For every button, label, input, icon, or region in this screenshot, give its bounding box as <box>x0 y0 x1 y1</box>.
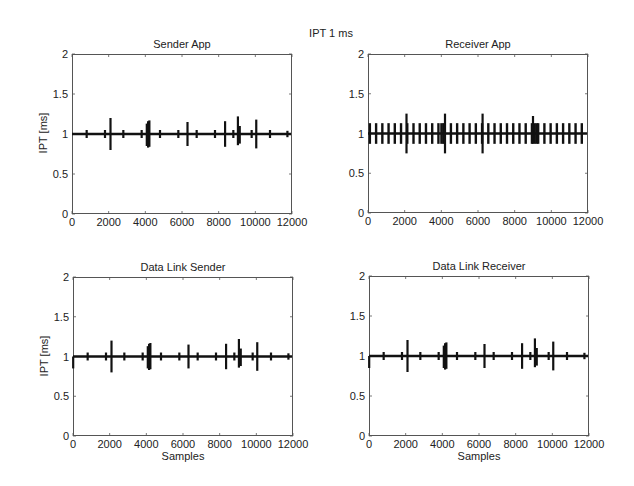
x-tick-label: 12000 <box>569 438 609 450</box>
y-tick-label: 0.5 <box>45 390 69 402</box>
data-series <box>72 54 292 214</box>
x-tick-label: 0 <box>52 216 92 228</box>
y-tick-label: 0.5 <box>340 167 364 179</box>
x-axis-label: Samples <box>439 450 519 462</box>
data-series <box>368 54 588 213</box>
panel-title: Data Link Receiver <box>369 260 589 272</box>
y-tick-label: 0.5 <box>341 390 365 402</box>
y-tick-label: 1 <box>340 128 364 140</box>
y-tick-label: 1.5 <box>44 88 68 100</box>
x-tick-label: 4000 <box>126 438 166 450</box>
x-tick-label: 0 <box>53 438 93 450</box>
y-tick-label: 1.5 <box>45 311 69 323</box>
x-tick-label: 2000 <box>90 438 130 450</box>
x-tick-label: 2000 <box>385 215 425 227</box>
x-tick-label: 12000 <box>272 216 312 228</box>
data-series <box>73 277 293 436</box>
y-tick-label: 1 <box>45 351 69 363</box>
x-tick-label: 6000 <box>162 216 202 228</box>
y-tick-label: 0.5 <box>44 168 68 180</box>
panel-title: Sender App <box>72 38 292 50</box>
x-tick-label: 10000 <box>235 216 275 228</box>
y-tick-label: 1.5 <box>341 310 365 322</box>
x-tick-label: 2000 <box>89 216 129 228</box>
x-tick-label: 10000 <box>532 438 572 450</box>
x-tick-label: 12000 <box>273 438 313 450</box>
x-tick-label: 8000 <box>200 438 240 450</box>
panel-title: Data Link Sender <box>73 261 293 273</box>
x-tick-label: 6000 <box>459 438 499 450</box>
y-tick-label: 2 <box>341 270 365 282</box>
x-tick-label: 0 <box>348 215 388 227</box>
y-tick-label: 1 <box>44 128 68 140</box>
y-tick-label: 2 <box>45 271 69 283</box>
y-tick-label: 1 <box>341 350 365 362</box>
x-tick-label: 10000 <box>531 215 571 227</box>
x-tick-label: 0 <box>349 438 389 450</box>
data-series <box>369 276 589 436</box>
x-tick-label: 10000 <box>236 438 276 450</box>
x-tick-label: 4000 <box>125 216 165 228</box>
panel-title: Receiver App <box>368 38 588 50</box>
x-tick-label: 8000 <box>199 216 239 228</box>
y-tick-label: 2 <box>44 48 68 60</box>
x-tick-label: 8000 <box>496 438 536 450</box>
y-tick-label: 1.5 <box>340 88 364 100</box>
y-tick-label: 2 <box>340 48 364 60</box>
x-axis-label: Samples <box>143 450 223 462</box>
x-tick-label: 2000 <box>386 438 426 450</box>
x-tick-label: 4000 <box>421 215 461 227</box>
x-tick-label: 8000 <box>495 215 535 227</box>
x-tick-label: 6000 <box>163 438 203 450</box>
x-tick-label: 6000 <box>458 215 498 227</box>
x-tick-label: 12000 <box>568 215 608 227</box>
x-tick-label: 4000 <box>422 438 462 450</box>
